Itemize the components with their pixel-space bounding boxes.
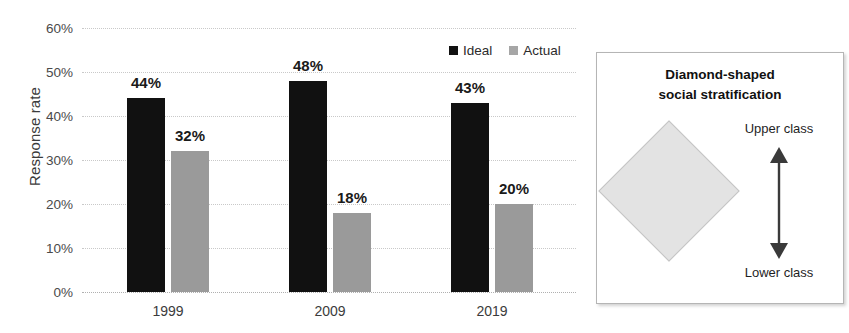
bar-actual-2009 [333, 213, 371, 292]
bar-ideal-2009 [289, 81, 327, 292]
y-axis-tick-label: 10% [27, 241, 73, 256]
bar-ideal-1999 [127, 98, 165, 292]
bar-value-label: 48% [293, 57, 323, 74]
diagram-title: Diamond-shaped social stratification [597, 65, 843, 104]
legend-swatch-ideal-icon [449, 46, 458, 55]
bar-ideal-2019 [451, 103, 489, 292]
legend-swatch-actual-icon [509, 46, 518, 55]
y-axis-tick-label: 20% [27, 197, 73, 212]
diagram-panel: Diamond-shaped social stratification Upp… [596, 52, 844, 304]
gridline [82, 72, 576, 73]
bar-value-label: 18% [337, 189, 367, 206]
diagram-title-line1: Diamond-shaped [665, 67, 775, 82]
bar-value-label: 43% [455, 79, 485, 96]
gridline [82, 28, 576, 29]
y-axis-tick-label: 40% [27, 109, 73, 124]
y-axis-tick-label: 0% [27, 285, 73, 300]
plot-area: 0%10%20%30%40%50%60%44%32%199948%18%2009… [82, 28, 576, 292]
bar-actual-1999 [171, 151, 209, 292]
legend-item-ideal: Ideal [449, 43, 492, 58]
lower-class-label: Lower class [723, 265, 835, 280]
y-axis-tick-label: 30% [27, 153, 73, 168]
bar-value-label: 20% [499, 180, 529, 197]
diagram-title-line2: social stratification [658, 87, 781, 102]
x-axis-tick-label: 1999 [152, 303, 183, 319]
bar-actual-2019 [495, 204, 533, 292]
bar-value-label: 32% [175, 127, 205, 144]
y-axis-title: Response rate [26, 67, 43, 207]
legend-label-ideal: Ideal [463, 43, 492, 58]
y-axis-tick-label: 60% [27, 21, 73, 36]
legend-label-actual: Actual [523, 43, 561, 58]
x-axis-tick-label: 2019 [476, 303, 507, 319]
bar-chart: Response rate 0%10%20%30%40%50%60%44%32%… [0, 0, 590, 333]
diamond-shape [598, 120, 739, 261]
screenshot-root: Response rate 0%10%20%30%40%50%60%44%32%… [0, 0, 849, 333]
x-axis-tick-label: 2009 [314, 303, 345, 319]
y-axis-tick-label: 50% [27, 65, 73, 80]
gridline [82, 292, 576, 293]
double-arrow-icon [761, 145, 797, 261]
chart-legend: Ideal Actual [446, 41, 564, 60]
legend-item-actual: Actual [509, 43, 561, 58]
upper-class-label: Upper class [723, 121, 835, 136]
bar-value-label: 44% [131, 74, 161, 91]
